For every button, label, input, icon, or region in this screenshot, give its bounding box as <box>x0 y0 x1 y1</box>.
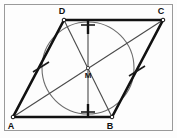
center-point-M <box>86 66 89 69</box>
vertex-point-B <box>110 115 114 119</box>
vertex-point-D <box>62 18 66 22</box>
vertex-label-B: B <box>107 121 114 131</box>
rhombus-inscribed-circle-diagram: A B C D M <box>0 0 177 138</box>
geometry-figure: A B C D M <box>0 0 177 138</box>
vertex-point-A <box>11 115 15 119</box>
vertex-label-D: D <box>59 6 66 16</box>
vertex-point-C <box>161 18 165 22</box>
vertex-label-C: C <box>158 6 165 16</box>
center-label-M: M <box>85 71 92 80</box>
vertex-label-A: A <box>8 121 15 131</box>
